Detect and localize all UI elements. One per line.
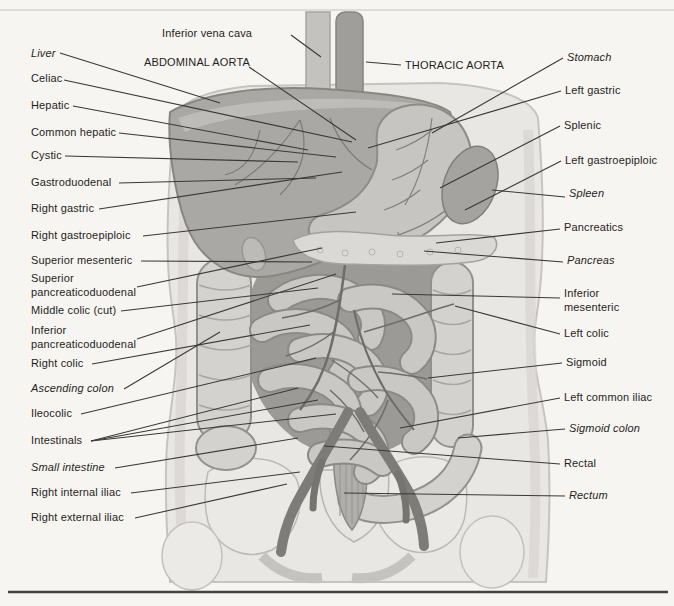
label-left-common-iliac: Left common iliac [564, 390, 652, 404]
label-inferior-mesenteric: Inferior mesenteric [564, 286, 644, 314]
label-small-intestine: Small intestine [31, 460, 105, 474]
label-inferior-pancreaticoduodenal: Inferior pancreaticoduodenal [31, 323, 163, 351]
label-sigmoid-colon: Sigmoid colon [569, 421, 640, 435]
label-thoracic-aorta: THORACIC AORTA [405, 58, 504, 72]
pancreas-shape [293, 231, 497, 265]
label-stomach: Stomach [567, 50, 611, 64]
label-sigmoid: Sigmoid [566, 355, 607, 369]
label-gastroduodenal: Gastroduodenal [31, 175, 111, 189]
label-right-colic: Right colic [31, 356, 83, 370]
label-hepatic: Hepatic [31, 98, 69, 112]
label-right-external-iliac: Right external iliac [31, 510, 124, 524]
label-abdominal-aorta: ABDOMINAL AORTA [144, 55, 250, 69]
label-celiac: Celiac [31, 71, 62, 85]
label-superior-pancreaticoduodenal: Superior pancreaticoduodenal [31, 271, 163, 299]
label-superior-mesenteric: Superior mesenteric [31, 253, 132, 267]
label-cystic: Cystic [31, 148, 62, 162]
label-left-gastroepiploic: Left gastroepiploic [565, 153, 657, 167]
label-middle-colic-cut: Middle colic (cut) [31, 303, 116, 317]
label-right-gastric: Right gastric [31, 201, 94, 215]
label-ascending-colon: Ascending colon [31, 381, 114, 395]
label-rectal: Rectal [564, 456, 596, 470]
label-rectum: Rectum [569, 488, 608, 502]
label-common-hepatic: Common hepatic [31, 125, 116, 139]
label-inferior-vena-cava: Inferior vena cava [162, 26, 252, 40]
anatomy-figure-page: Inferior vena cava ABDOMINAL AORTA THORA… [0, 0, 674, 606]
label-right-gastroepiploic: Right gastroepiploic [31, 228, 131, 242]
label-right-internal-iliac: Right internal iliac [31, 485, 121, 499]
label-left-colic: Left colic [564, 326, 609, 340]
label-pancreas: Pancreas [567, 253, 615, 267]
label-pancreatics: Pancreatics [564, 220, 623, 234]
label-left-gastric: Left gastric [565, 83, 621, 97]
label-ileocolic: Ileocolic [31, 406, 72, 420]
label-liver: Liver [31, 46, 56, 60]
label-intestinals: Intestinals [31, 433, 82, 447]
label-spleen: Spleen [569, 186, 604, 200]
label-splenic: Splenic [564, 118, 601, 132]
